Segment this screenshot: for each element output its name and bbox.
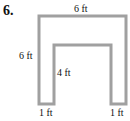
label-inner-height: 4 ft bbox=[57, 67, 71, 78]
u-shape-outline bbox=[39, 16, 126, 104]
label-bottom-right-width: 1 ft bbox=[110, 107, 124, 118]
label-bottom-left-width: 1 ft bbox=[39, 107, 53, 118]
label-left-height: 6 ft bbox=[19, 50, 33, 61]
label-top-width: 6 ft bbox=[74, 3, 88, 14]
